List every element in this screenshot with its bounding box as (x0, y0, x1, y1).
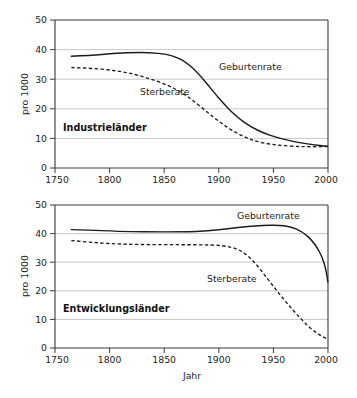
bottom-ytick-30: 30 (35, 257, 47, 268)
bottom-xtick-1850: 1850 (152, 354, 176, 365)
top-xtick-1950: 1950 (262, 174, 286, 185)
bottom-xtick-1750: 1750 (45, 354, 69, 365)
panel-bottom: 50 40 30 20 10 0 1750 1800 1850 1900 195… (19, 199, 338, 381)
bottom-label-region: Entwicklungsländer (63, 303, 170, 314)
demographic-transition-figure: 50 40 30 20 10 0 1750 1800 1850 1900 195… (0, 0, 357, 398)
top-ytick-30: 30 (35, 74, 47, 85)
bottom-y-axis-title: pro 1000 (19, 255, 30, 297)
bottom-label-sterberate: Sterberate (207, 273, 257, 284)
bottom-ytick-10: 10 (35, 314, 47, 325)
top-xtick-2000: 2000 (314, 174, 338, 185)
bottom-ytick-20: 20 (35, 285, 47, 296)
bottom-xtick-2000: 2000 (314, 354, 338, 365)
top-label-sterberate: Sterberate (140, 86, 190, 97)
bottom-x-axis-title: Jahr (182, 370, 201, 381)
top-y-ticks (50, 20, 55, 168)
bottom-x-ticks (55, 348, 328, 353)
top-label-region: Industrieländer (63, 122, 147, 133)
bottom-xtick-1800: 1800 (98, 354, 122, 365)
top-x-ticks (55, 168, 328, 173)
bottom-ytick-50: 50 (35, 199, 47, 210)
top-ytick-20: 20 (35, 103, 47, 114)
bottom-xtick-1950: 1950 (262, 354, 286, 365)
top-xtick-1750: 1750 (45, 174, 69, 185)
top-y-axis-title: pro 1000 (19, 73, 30, 115)
bottom-ytick-40: 40 (35, 228, 47, 239)
bottom-label-geburtenrate: Geburtenrate (237, 210, 300, 221)
top-xtick-1900: 1900 (207, 174, 231, 185)
top-ytick-10: 10 (35, 133, 47, 144)
bottom-xtick-1900: 1900 (207, 354, 231, 365)
bottom-y-ticks (50, 205, 55, 348)
chart-svg: 50 40 30 20 10 0 1750 1800 1850 1900 195… (0, 0, 357, 398)
top-ytick-50: 50 (35, 14, 47, 25)
panel-top: 50 40 30 20 10 0 1750 1800 1850 1900 195… (19, 14, 338, 185)
bottom-ytick-0: 0 (41, 342, 47, 353)
top-xtick-1850: 1850 (152, 174, 176, 185)
top-ytick-0: 0 (41, 162, 47, 173)
bottom-series-sterberate (71, 241, 327, 339)
top-xtick-1800: 1800 (98, 174, 122, 185)
top-label-geburtenrate: Geburtenrate (219, 61, 282, 72)
top-ytick-40: 40 (35, 44, 47, 55)
